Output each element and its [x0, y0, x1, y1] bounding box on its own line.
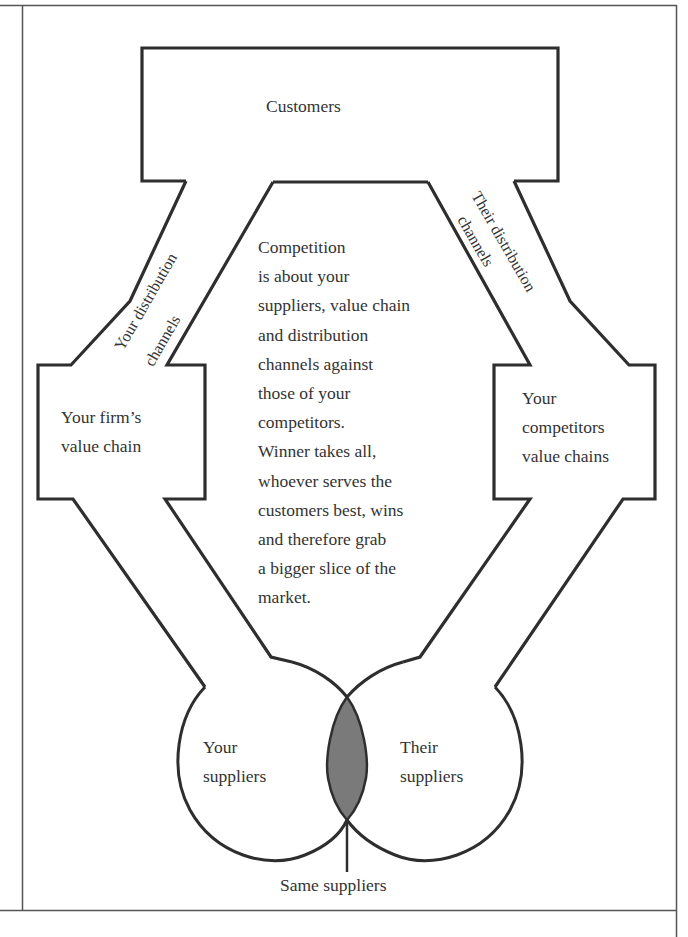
diagram-canvas: Customers Your distribution channels The…: [0, 0, 688, 937]
same-suppliers-label: Same suppliers: [280, 871, 386, 900]
your-value-chain-label: Your firm’s value chain: [61, 403, 141, 461]
overlap-region: [327, 697, 367, 820]
competition-explanation: Competition is about your suppliers, val…: [258, 233, 410, 613]
your-suppliers-label: Your suppliers: [203, 733, 266, 791]
their-suppliers-label: Their suppliers: [400, 733, 463, 791]
competitor-value-chain-label: Your competitors value chains: [522, 384, 609, 471]
customers-label: Customers: [266, 92, 341, 121]
customers-box-outline: [142, 48, 558, 181]
